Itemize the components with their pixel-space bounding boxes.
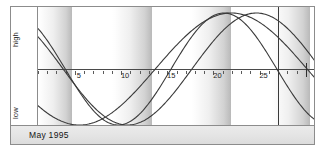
y-axis-label-low: low [11, 1, 20, 119]
chart-upper-area: high low 510152025 [11, 7, 314, 125]
curve-emotional [38, 13, 314, 125]
chart-frame: high low 510152025 May 1995 [10, 6, 315, 145]
caption-bar: May 1995 [11, 125, 314, 144]
biorhythm-curves [38, 7, 314, 125]
curve-physical [38, 13, 314, 125]
curve-intellectual [38, 13, 314, 125]
plot-area[interactable]: 510152025 [38, 7, 314, 125]
caption-month-label: May 1995 [29, 130, 69, 140]
y-axis-label-column: high low [11, 7, 38, 125]
biorhythm-chart-widget: high low 510152025 May 1995 [0, 0, 324, 159]
today-marker-line [278, 7, 279, 125]
